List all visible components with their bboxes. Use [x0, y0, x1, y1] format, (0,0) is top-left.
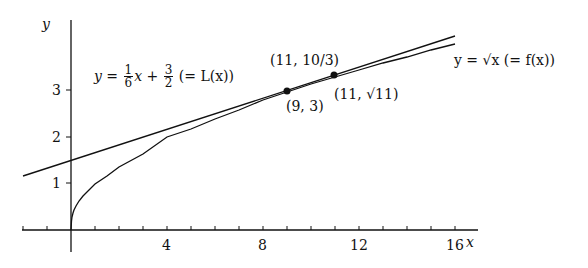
y-tick-2: 2 [52, 129, 61, 145]
y-tick-3: 3 [52, 82, 61, 98]
plot-canvas [0, 0, 588, 268]
fraction-3-2: 32 [164, 64, 174, 89]
x-tick-16: 16 [446, 237, 464, 253]
y-axis-label: y [42, 16, 50, 32]
tangent-equation-label: y = 16x + 32 (= L(x)) [94, 64, 234, 89]
sqrt-equation-label: y = √x (= f(x)) [454, 52, 555, 68]
fraction-1-6: 16 [124, 64, 134, 89]
point-label-11-sqrt11: (11, √11) [334, 86, 398, 102]
x-axis-label: x [466, 234, 474, 250]
frac1-den: 6 [124, 77, 134, 89]
point-9-3 [284, 88, 291, 95]
x-tick-8: 8 [258, 237, 267, 253]
tangent-suffix: (= L(x)) [174, 68, 234, 84]
y-ticks [66, 90, 71, 183]
point-11 [331, 72, 338, 79]
tangent-mid: x + [134, 68, 163, 84]
point-label-9-3: (9, 3) [286, 98, 324, 114]
y-tick-1: 1 [52, 175, 61, 191]
frac2-den: 2 [164, 77, 174, 89]
tangent-line-L [23, 36, 455, 176]
x-tick-4: 4 [162, 237, 171, 253]
point-label-11-10-3: (11, 10/3) [270, 52, 339, 68]
tangent-prefix: y = [94, 68, 123, 84]
x-tick-12: 12 [350, 237, 368, 253]
